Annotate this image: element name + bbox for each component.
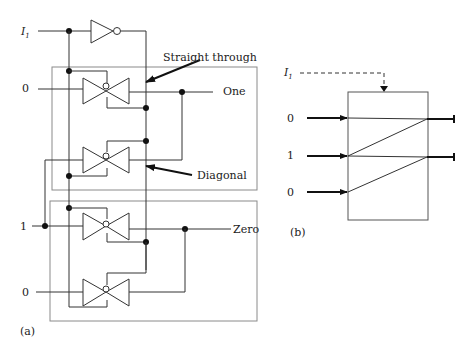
control-dashed-line <box>300 73 384 88</box>
input-1-a: 1 <box>20 220 27 233</box>
lower-demux-box <box>50 201 257 321</box>
transmission-gate-4 <box>83 279 129 306</box>
inverter-gate <box>91 20 121 43</box>
straight-through-label: Straight through <box>163 51 257 64</box>
input-0-top-a: 0 <box>22 82 29 95</box>
straight-path-1 <box>348 118 427 119</box>
input-0-bottom-b: 0 <box>287 186 294 199</box>
diagonal-path-2 <box>348 157 427 192</box>
output-zero-label: Zero <box>233 223 259 236</box>
transmission-gate-3 <box>83 213 129 240</box>
control-input-label-a: I1 <box>20 25 30 40</box>
input-0-top-b: 0 <box>287 112 294 125</box>
diagonal-arrow <box>146 166 192 175</box>
diagonal-path-1 <box>348 119 427 156</box>
figure-a: I1 0 One <box>20 20 259 338</box>
diagonal-label: Diagonal <box>197 169 247 182</box>
transmission-gate-2 <box>83 147 129 173</box>
inverter-bubble <box>114 28 121 35</box>
diagonal-input-wire <box>45 160 83 226</box>
circuit-figure: I1 0 One <box>0 0 475 349</box>
figure-b-caption: (b) <box>290 226 306 239</box>
straight-path-2 <box>348 156 427 157</box>
input-1-b: 1 <box>287 149 294 162</box>
input-0-bottom-a: 0 <box>22 286 29 299</box>
transmission-gate-1 <box>83 78 129 104</box>
figure-a-caption: (a) <box>20 325 35 338</box>
output-one-label: One <box>223 85 246 98</box>
control-input-label-b: I1 <box>283 66 293 81</box>
figure-b: I1 0 1 0 (b) <box>283 66 454 239</box>
